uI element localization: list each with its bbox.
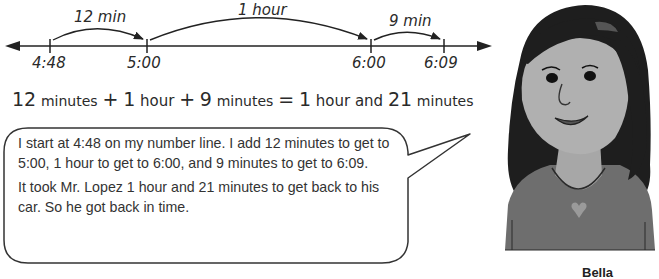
tick-label-6-00: 6:00 (352, 54, 386, 72)
equation: 12 minutes + 1 hour + 9 minutes = 1 hour… (12, 88, 474, 110)
tick-label-6-09: 6:09 (424, 54, 458, 72)
bubble-paragraph-2: It took Mr. Lopez 1 hour and 21 minutes … (18, 178, 393, 217)
left-arrow-icon (5, 41, 20, 51)
jump-label-9-min: 9 min (389, 12, 432, 30)
tick-label-4-48: 4:48 (32, 54, 66, 72)
jump-label-12-min: 12 min (74, 8, 126, 26)
jump-arc-1-hour (150, 18, 367, 40)
jump-label-1-hour: 1 hour (238, 1, 287, 19)
jump-arc-9-min (374, 32, 440, 40)
jump-arc-12-min (53, 29, 143, 40)
bubble-paragraph-1: I start at 4:48 on my number line. I add… (18, 134, 393, 173)
tick-label-5-00: 5:00 (127, 54, 161, 72)
character-name: Bella (582, 265, 613, 279)
girl-portrait-icon (500, 0, 659, 255)
right-arrow-icon (477, 41, 492, 51)
speech-bubble-text: I start at 4:48 on my number line. I add… (18, 134, 393, 222)
